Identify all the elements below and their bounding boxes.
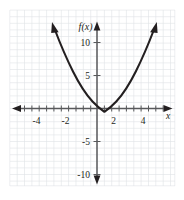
y-tick-label-10: 10: [81, 38, 91, 48]
y-tick-label-neg5: -5: [82, 137, 90, 147]
y-tick-label-neg10: -10: [77, 170, 90, 180]
y-tick-label-5: 5: [85, 71, 90, 81]
x-tick-label-4: 4: [141, 116, 146, 126]
parabola-plot: -4 -2 2 4 -10 -5 5 10 f(x) x: [0, 0, 184, 200]
x-axis-label: x: [165, 111, 171, 121]
x-tick-label-neg4: -4: [33, 116, 41, 126]
graph-figure: -4 -2 2 4 -10 -5 5 10 f(x) x: [0, 0, 184, 200]
function-label: f(x): [79, 21, 94, 33]
x-tick-label-2: 2: [111, 116, 116, 126]
x-tick-label-neg2: -2: [62, 116, 70, 126]
